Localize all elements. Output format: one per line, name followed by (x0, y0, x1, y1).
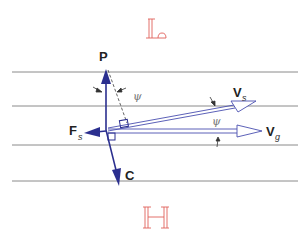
c-arrowhead-icon (112, 168, 121, 186)
symbol-l-top (146, 19, 166, 38)
fs-arrowhead-icon (84, 127, 100, 137)
angle-arrows-top (93, 87, 126, 92)
label-vg-sub: g (275, 132, 280, 142)
symbol-h-bottom (143, 207, 169, 228)
p-arrowhead-icon (101, 69, 111, 84)
psi-label-right: ψ (212, 115, 221, 128)
label-fs: F (69, 123, 77, 138)
psi-label-top: ψ (133, 90, 142, 103)
right-angle-marker-1 (119, 119, 128, 127)
force-diagram: ψ ψ P C F s V s V g (0, 0, 308, 239)
label-fs-sub: s (78, 132, 83, 142)
label-c: C (125, 168, 135, 183)
horizontal-lines (12, 72, 298, 181)
label-vs: V (233, 85, 242, 100)
dashed-normal-line (108, 70, 127, 123)
label-vs-sub: s (242, 93, 247, 103)
label-vg: V (266, 124, 275, 139)
label-p: P (99, 49, 108, 64)
